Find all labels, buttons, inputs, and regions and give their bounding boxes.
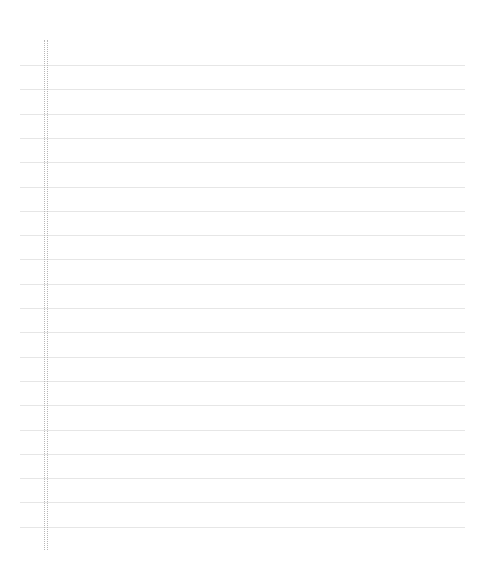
ruled-line bbox=[20, 187, 465, 188]
ruled-line bbox=[20, 138, 465, 139]
ruled-line bbox=[20, 308, 465, 309]
margin-line bbox=[44, 40, 45, 550]
margin-line bbox=[47, 40, 48, 550]
ruled-line bbox=[20, 502, 465, 503]
ruled-line bbox=[20, 478, 465, 479]
ruled-line bbox=[20, 405, 465, 406]
ruled-line bbox=[20, 430, 465, 431]
ruled-line bbox=[20, 332, 465, 333]
ruled-line bbox=[20, 357, 465, 358]
ruled-line bbox=[20, 89, 465, 90]
ruled-line bbox=[20, 211, 465, 212]
ruled-line bbox=[20, 454, 465, 455]
ruled-line bbox=[20, 259, 465, 260]
ruled-line bbox=[20, 235, 465, 236]
ruled-line bbox=[20, 162, 465, 163]
ruled-line bbox=[20, 114, 465, 115]
ruled-line bbox=[20, 381, 465, 382]
ruled-line bbox=[20, 284, 465, 285]
ruled-line bbox=[20, 65, 465, 66]
ruled-line bbox=[20, 527, 465, 528]
lined-paper bbox=[0, 0, 497, 561]
